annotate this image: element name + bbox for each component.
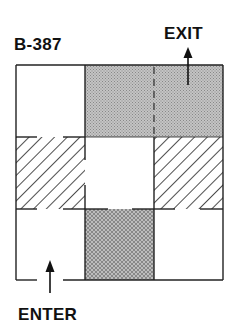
cell-r3-c3 [154, 209, 223, 280]
maze-diagram [0, 0, 236, 331]
cell-r2-c3-hatched [154, 137, 223, 209]
cell-r1-c2-c3-dotted-region [85, 65, 223, 137]
cell-r3-c2-crosshatch [85, 209, 154, 280]
cell-r2-c2 [85, 137, 154, 209]
cell-r1-c1 [16, 65, 85, 137]
cell-r2-c1-hatched [16, 137, 85, 209]
